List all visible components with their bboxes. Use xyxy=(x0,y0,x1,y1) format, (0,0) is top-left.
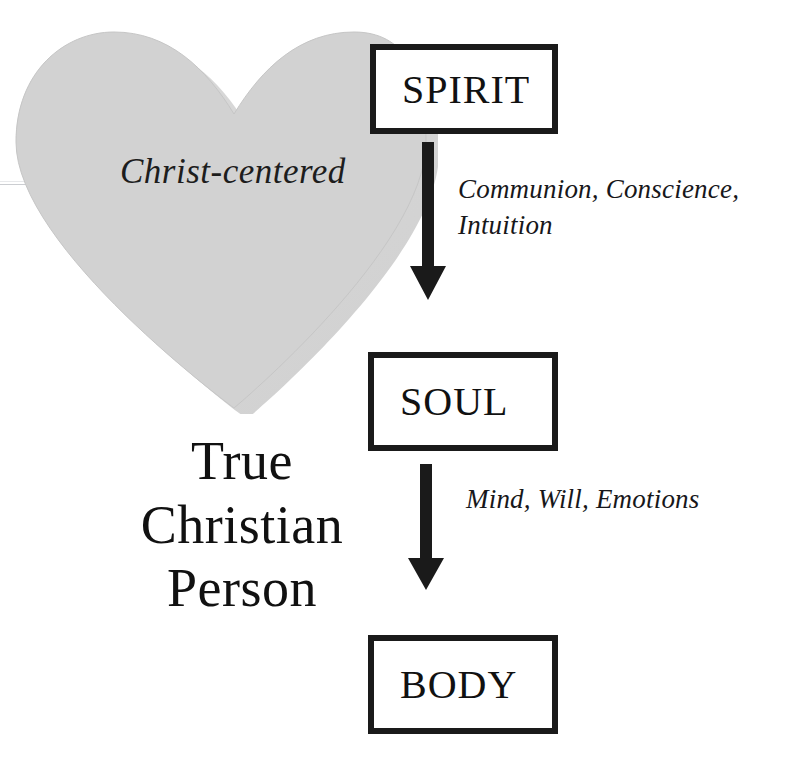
box-body-label: BODY xyxy=(374,661,517,708)
box-soul-label: SOUL xyxy=(374,378,508,425)
page-title: True Christian Person xyxy=(92,430,392,621)
box-spirit-label: SPIRIT xyxy=(376,66,530,113)
page-title-line-3: Person xyxy=(92,557,392,621)
box-spirit: SPIRIT xyxy=(370,44,558,134)
diagram-canvas: Christ-centered True Christian Person SP… xyxy=(0,0,790,759)
down-arrow-icon-soul-to-body xyxy=(402,462,450,594)
annotation-spirit-faculties: Communion, Conscience, Intuition xyxy=(458,172,739,244)
page-title-line-2: Christian xyxy=(92,494,392,558)
heart-label: Christ-centered xyxy=(120,152,346,192)
box-soul: SOUL xyxy=(368,352,558,451)
page-title-line-1: True xyxy=(92,430,392,494)
down-arrow-icon-spirit-to-soul xyxy=(404,140,452,304)
annotation-soul-faculties: Mind, Will, Emotions xyxy=(466,482,700,518)
box-body: BODY xyxy=(368,635,558,734)
